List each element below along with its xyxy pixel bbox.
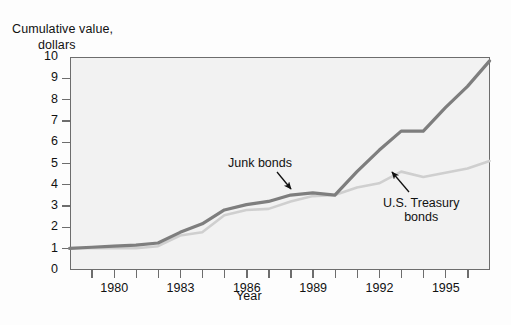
chart-figure: Cumulative value, dollars 012345678910 1… bbox=[0, 0, 511, 325]
annotation-arrow-junk-bonds bbox=[277, 172, 291, 189]
annotation-arrows bbox=[0, 0, 511, 325]
annotation-arrow-treasury-bonds bbox=[392, 172, 409, 192]
